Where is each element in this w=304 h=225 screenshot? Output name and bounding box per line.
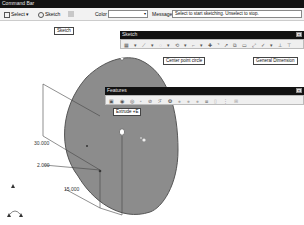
extend-icon[interactable]: ↗ bbox=[224, 42, 228, 48]
line-icon[interactable]: ⟋ bbox=[142, 42, 146, 49]
center-hole[interactable] bbox=[119, 129, 124, 135]
sketch-icon bbox=[38, 12, 44, 18]
color-label: Color bbox=[95, 11, 107, 17]
command-bar: Select ▾ Sketch Color ▾ Message Select t… bbox=[0, 8, 304, 21]
constraint-icon[interactable]: ✓ bbox=[261, 42, 265, 48]
dropdown-arrow-icon: ▾ bbox=[144, 11, 146, 17]
center-point-circle-tooltip: Center point circle bbox=[163, 57, 205, 65]
loft-icon[interactable]: ▪ bbox=[140, 98, 142, 104]
split-icon[interactable]: ⊞ bbox=[234, 98, 238, 104]
sketch-label: Sketch bbox=[45, 11, 60, 17]
fillet-icon[interactable]: ℱ bbox=[158, 98, 162, 104]
pattern-icon[interactable]: ⊤ bbox=[287, 42, 291, 48]
rib-icon[interactable]: ● bbox=[187, 98, 190, 104]
select-button[interactable]: Select ▾ bbox=[4, 11, 29, 18]
offset-icon[interactable]: ⧉ bbox=[233, 42, 237, 49]
center-point-circle-icon[interactable]: ◌ bbox=[159, 42, 162, 48]
boolean-icon[interactable]: ⋮ bbox=[223, 98, 228, 104]
features-toolbar-title[interactable]: Features × bbox=[105, 87, 304, 95]
close-icon[interactable]: × bbox=[296, 32, 302, 37]
small-point bbox=[142, 138, 145, 141]
color-swatch[interactable] bbox=[68, 11, 74, 17]
dimension-30[interactable]: 30.000 bbox=[34, 140, 49, 146]
mirror-icon[interactable]: ⊥ bbox=[278, 42, 282, 48]
trim-icon[interactable]: ⌝ bbox=[217, 42, 219, 48]
chamfer-icon[interactable]: ❂ bbox=[168, 98, 172, 104]
sketch-toolbar: ▦▾ ⟋▾ ◌▾ ⟲▾ ⌐▾ ✚ ⌝ ↗ ⧉ ▭ ⤢ ✓▾ ⊥ ⊤ bbox=[120, 39, 304, 49]
hole-icon[interactable]: ⊘ bbox=[148, 98, 152, 104]
shell-icon[interactable]: ● bbox=[178, 98, 181, 104]
message-label: Message bbox=[152, 11, 172, 17]
dimension-15[interactable]: 15.000 bbox=[64, 186, 79, 192]
axis-triad bbox=[7, 184, 23, 217]
command-bar-title: Command Bar bbox=[0, 0, 304, 8]
general-dimension-icon[interactable]: ⤢ bbox=[252, 42, 256, 49]
select-icon bbox=[4, 12, 10, 18]
features-toolbar: ▣ ◉ ◎ ▪ ⊘ ℱ ❂ ● ● ● ⧈ ▯ ⋮ ⊞ bbox=[105, 95, 304, 105]
point-icon[interactable]: ✚ bbox=[208, 42, 212, 48]
color-select[interactable]: ▾ bbox=[108, 10, 148, 18]
mirror-icon[interactable]: ▯ bbox=[214, 98, 217, 104]
sketch-toolbar-title[interactable]: Sketch × bbox=[120, 31, 304, 39]
select-label: Select bbox=[11, 11, 25, 17]
grid-icon[interactable]: ▦ bbox=[124, 42, 129, 48]
sketch-tooltip: Sketch bbox=[54, 27, 74, 35]
close-icon[interactable]: × bbox=[296, 88, 302, 93]
sketch-point bbox=[86, 145, 88, 147]
small-point bbox=[140, 137, 142, 139]
dimension-2[interactable]: 2.000 bbox=[37, 162, 50, 168]
pattern-icon[interactable]: ⧈ bbox=[205, 98, 208, 105]
arc-icon[interactable]: ⟲ bbox=[175, 42, 179, 48]
general-dimension-tooltip: General Dimension bbox=[253, 57, 298, 65]
sketch-button[interactable]: Sketch bbox=[38, 11, 60, 18]
polyline-icon[interactable]: ⌐ bbox=[192, 42, 195, 48]
rectangle-icon[interactable]: ▭ bbox=[242, 42, 247, 48]
revolve-icon[interactable]: ◉ bbox=[120, 98, 124, 104]
extrude-icon[interactable]: ▣ bbox=[109, 98, 114, 104]
draft-icon[interactable]: ● bbox=[196, 98, 199, 104]
message-field: Select to start sketching. Unselect to s… bbox=[172, 10, 302, 18]
disc-face[interactable] bbox=[65, 58, 178, 215]
mouse-cursor bbox=[56, 21, 60, 26]
extrude-tooltip: Extrude +E bbox=[113, 108, 141, 116]
disc-part[interactable] bbox=[65, 58, 178, 215]
sweep-icon[interactable]: ◎ bbox=[130, 98, 134, 104]
